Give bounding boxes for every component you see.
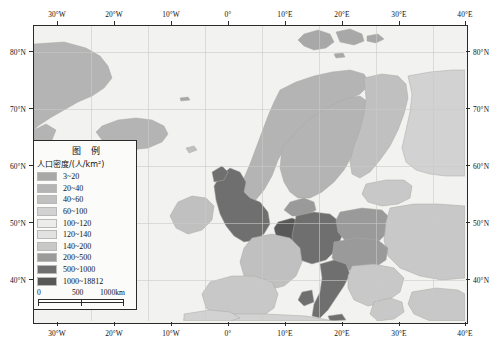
tick-top-20w bbox=[114, 21, 115, 25]
legend-row[interactable]: 3~20 bbox=[34, 171, 136, 183]
axis-label-left-4: 40°N bbox=[1, 276, 26, 285]
axis-label-top-2: 10°W bbox=[162, 10, 180, 19]
tick-top-30w bbox=[57, 21, 58, 25]
scale-bar: 0 500 1000km bbox=[34, 288, 136, 308]
tick-bottom-30e bbox=[399, 322, 400, 326]
tick-left-80n bbox=[29, 51, 33, 52]
legend-row[interactable]: 140~200 bbox=[34, 241, 136, 253]
axis-label-top-4: 10°E bbox=[277, 10, 292, 19]
axis-label-left-2: 60°N bbox=[1, 162, 26, 171]
axis-label-top-7: 40°E bbox=[457, 10, 472, 19]
axis-label-bottom-6: 30°E bbox=[391, 329, 406, 338]
tick-top-30e bbox=[399, 21, 400, 25]
legend-row[interactable]: 20~40 bbox=[34, 183, 136, 195]
tick-right-60n bbox=[466, 165, 470, 166]
legend-subtitle: 人口密度/(人/km²) bbox=[34, 158, 136, 171]
legend-swatch bbox=[37, 172, 57, 181]
legend-swatch bbox=[37, 195, 57, 204]
scalebar-tick-1: 500 bbox=[72, 288, 83, 297]
legend-title: 图 例 bbox=[34, 143, 136, 158]
tick-top-20e bbox=[342, 21, 343, 25]
legend-label: 1000~18812 bbox=[63, 277, 103, 286]
axis-label-top-5: 20°E bbox=[334, 10, 349, 19]
legend-label: 140~200 bbox=[63, 242, 91, 251]
axis-label-bottom-7: 40°E bbox=[457, 329, 472, 338]
legend-swatch bbox=[37, 253, 57, 262]
axis-label-top-0: 30°W bbox=[48, 10, 66, 19]
legend-swatch bbox=[37, 207, 57, 216]
tick-right-40n bbox=[466, 279, 470, 280]
legend-swatch bbox=[37, 265, 57, 274]
legend-swatch bbox=[37, 242, 57, 251]
tick-bottom-10w bbox=[171, 322, 172, 326]
tick-bottom-40e bbox=[465, 322, 466, 326]
legend-label: 60~100 bbox=[63, 207, 87, 216]
axis-label-left-0: 80°N bbox=[1, 48, 26, 57]
legend-label: 20~40 bbox=[63, 184, 83, 193]
axis-label-bottom-4: 10°E bbox=[277, 329, 292, 338]
tick-top-40e bbox=[465, 21, 466, 25]
axis-label-left-3: 50°N bbox=[1, 219, 26, 228]
tick-right-50n bbox=[466, 222, 470, 223]
tick-top-10w bbox=[171, 21, 172, 25]
axis-label-right-0: 80°N bbox=[473, 48, 489, 57]
tick-right-80n bbox=[466, 51, 470, 52]
tick-bottom-0 bbox=[228, 322, 229, 326]
axis-label-bottom-2: 10°W bbox=[162, 329, 180, 338]
legend-row[interactable]: 40~60 bbox=[34, 194, 136, 206]
tick-top-0 bbox=[228, 21, 229, 25]
legend-swatch bbox=[37, 277, 57, 286]
axis-label-right-4: 40°N bbox=[473, 276, 489, 285]
axis-label-bottom-1: 20°W bbox=[105, 329, 123, 338]
legend-row[interactable]: 200~500 bbox=[34, 252, 136, 264]
tick-right-70n bbox=[466, 108, 470, 109]
axis-label-top-3: 0° bbox=[225, 10, 232, 19]
axis-label-right-3: 50°N bbox=[473, 219, 489, 228]
legend-label: 200~500 bbox=[63, 253, 91, 262]
axis-label-left-1: 70°N bbox=[1, 105, 26, 114]
legend-label: 100~120 bbox=[63, 219, 91, 228]
tick-bottom-10e bbox=[285, 322, 286, 326]
region-jan-mayen bbox=[180, 97, 190, 101]
axis-label-bottom-0: 30°W bbox=[48, 329, 66, 338]
axis-label-bottom-3: 0° bbox=[225, 329, 232, 338]
legend-swatch bbox=[37, 219, 57, 228]
tick-bottom-20e bbox=[342, 322, 343, 326]
axis-label-top-1: 20°W bbox=[105, 10, 123, 19]
axis-label-right-1: 70°N bbox=[473, 105, 489, 114]
tick-bottom-20w bbox=[114, 322, 115, 326]
legend-swatch bbox=[37, 230, 57, 239]
legend-row[interactable]: 60~100 bbox=[34, 206, 136, 218]
tick-bottom-30w bbox=[57, 322, 58, 326]
scalebar-tick-2: 1000km bbox=[100, 288, 125, 297]
legend-row[interactable]: 100~120 bbox=[34, 217, 136, 229]
legend-label: 40~60 bbox=[63, 195, 83, 204]
axis-label-right-2: 60°N bbox=[473, 162, 489, 171]
scale-bar-tick-end bbox=[123, 299, 124, 306]
scale-bar-tick-mid bbox=[81, 299, 82, 306]
map-figure: 30°W 20°W 10°W 0° 10°E 20°E 30°E 40°E 30… bbox=[0, 0, 498, 351]
scalebar-tick-0: 0 bbox=[37, 288, 41, 297]
legend-row[interactable]: 1000~18812 bbox=[34, 275, 136, 287]
legend-label: 120~140 bbox=[63, 230, 91, 239]
axis-label-bottom-5: 20°E bbox=[334, 329, 349, 338]
legend-label: 500~1000 bbox=[63, 265, 95, 274]
legend-swatch bbox=[37, 184, 57, 193]
tick-left-70n bbox=[29, 108, 33, 109]
region-bear-island bbox=[334, 53, 345, 58]
legend-row[interactable]: 120~140 bbox=[34, 229, 136, 241]
axis-label-top-6: 30°E bbox=[391, 10, 406, 19]
legend-row[interactable]: 500~1000 bbox=[34, 264, 136, 276]
map-legend: 图 例 人口密度/(人/km²) 3~20 20~40 40~60 60~100… bbox=[33, 140, 137, 310]
legend-label: 3~20 bbox=[63, 172, 79, 181]
scale-bar-tick-start bbox=[38, 299, 39, 306]
tick-top-10e bbox=[285, 21, 286, 25]
